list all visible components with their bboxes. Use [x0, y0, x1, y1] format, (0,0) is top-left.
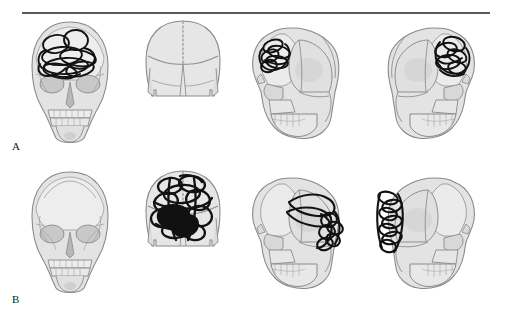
skull-view-a-lateral-left	[243, 18, 351, 146]
skull-frontal-bone-shapes	[32, 172, 108, 293]
skull-vertex-bone-shapes	[146, 21, 220, 96]
panel-label-b: B	[12, 293, 20, 305]
skull-view-a-lateral-right	[372, 18, 484, 146]
panel-b: B	[0, 168, 507, 318]
skull-view-b-lateral-right	[372, 168, 484, 296]
skull-frontal-bone-shapes	[32, 22, 108, 143]
panel-label-a: A	[12, 140, 20, 152]
top-horizontal-rule	[22, 12, 490, 14]
skull-lateral-left-bone-shapes	[253, 178, 339, 289]
panel-a: A	[0, 18, 507, 161]
figure-container: A	[0, 0, 507, 322]
skull-view-a-vertex	[140, 18, 226, 146]
skull-lateral-right-bone-shapes	[388, 28, 474, 139]
skull-view-b-frontal	[22, 168, 118, 296]
skull-view-a-frontal	[22, 18, 118, 146]
skull-view-b-vertex	[140, 168, 226, 296]
skull-view-b-lateral-left	[243, 168, 351, 296]
